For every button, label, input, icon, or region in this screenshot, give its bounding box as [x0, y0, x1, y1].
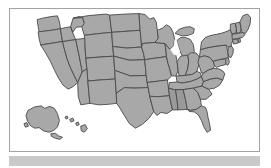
- bottom-status-bar: [9, 156, 260, 166]
- map-states-layer: [24, 14, 251, 140]
- map-frame: [9, 8, 260, 152]
- state-ME[interactable]: [240, 14, 251, 33]
- state-WY[interactable]: [84, 32, 113, 58]
- screenshot-root: [0, 0, 271, 168]
- state-AK[interactable]: [24, 106, 63, 139]
- state-RI[interactable]: [238, 38, 241, 42]
- state-NM[interactable]: [88, 79, 117, 105]
- state-DE[interactable]: [226, 58, 230, 66]
- us-states-map[interactable]: [10, 9, 259, 151]
- state-SD[interactable]: [112, 30, 142, 48]
- state-TX[interactable]: [116, 88, 154, 129]
- state-HI[interactable]: [65, 116, 87, 132]
- state-AR[interactable]: [147, 80, 169, 97]
- state-NJ[interactable]: [228, 46, 234, 58]
- state-ID[interactable]: [60, 17, 84, 42]
- state-CO[interactable]: [86, 56, 115, 81]
- state-ND[interactable]: [110, 14, 140, 33]
